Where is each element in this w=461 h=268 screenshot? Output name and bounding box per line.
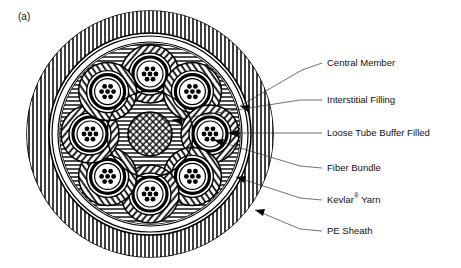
figure-tag: (a) [18, 11, 30, 22]
figure-page: (a) Central Member Interstitial Filling … [0, 0, 461, 268]
loose-tube [79, 63, 137, 121]
cable-cross-section-figure: (a) Central Member Interstitial Filling … [0, 0, 461, 268]
label-interstitial-filling: Interstitial Filling [327, 94, 395, 105]
label-kevlar-yarn-suffix: Yarn [359, 194, 381, 205]
label-pe-sheath: PE Sheath [327, 225, 372, 236]
label-kevlar-yarn: Kevlar® Yarn [327, 192, 381, 204]
label-fiber-bundle: Fiber Bundle [327, 162, 381, 173]
arrowhead-pe-sheath [255, 209, 265, 216]
label-loose-tube-buffer-filled: Loose Tube Buffer Filled [327, 127, 430, 138]
label-kevlar-yarn-base: Kevlar [327, 194, 354, 205]
label-central-member: Central Member [327, 57, 395, 68]
leader-pe-sheath [255, 210, 322, 231]
